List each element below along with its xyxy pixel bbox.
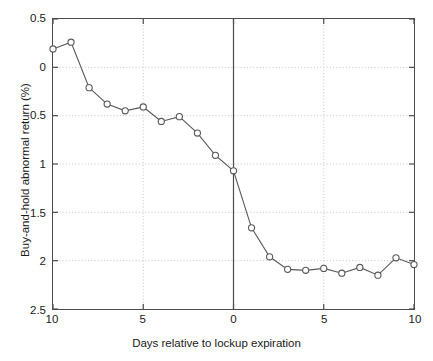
- x-axis-tick-label: 10: [32, 313, 72, 325]
- x-axis-tick-label: 10: [395, 313, 433, 325]
- y-axis-tick-label: 0.5: [0, 12, 46, 24]
- y-axis-tick-label: 2: [0, 255, 46, 267]
- y-axis-title: Buy-and-hold abnormal return (%): [19, 55, 31, 285]
- data-point-marker: [212, 152, 218, 158]
- plot-area: [52, 18, 415, 310]
- data-point-marker: [357, 264, 363, 270]
- y-axis-tick-label: 1.5: [0, 207, 46, 219]
- x-axis-tick-label: 5: [304, 313, 344, 325]
- data-point-marker: [230, 168, 236, 174]
- y-axis-tick-label: 1: [0, 158, 46, 170]
- data-point-marker: [375, 272, 381, 278]
- data-point-marker: [267, 254, 273, 260]
- data-series-layer: [53, 19, 414, 309]
- chart-figure: Buy-and-hold abnormal return (%) 0.500.5…: [0, 0, 433, 361]
- data-point-marker: [194, 130, 200, 136]
- data-point-marker: [50, 46, 56, 52]
- data-point-marker: [122, 108, 128, 114]
- data-point-marker: [68, 39, 74, 45]
- data-point-marker: [339, 270, 345, 276]
- data-point-marker: [321, 265, 327, 271]
- x-axis-tick-label: 0: [214, 313, 254, 325]
- data-point-marker: [158, 118, 164, 124]
- y-axis-tick-label: 0.5: [0, 109, 46, 121]
- x-axis-title: Days relative to lockup expiration: [0, 337, 433, 349]
- data-point-marker: [104, 101, 110, 107]
- data-point-marker: [248, 225, 254, 231]
- data-point-marker: [285, 266, 291, 272]
- data-point-marker: [303, 267, 309, 273]
- y-axis-tick-label: 0: [0, 61, 46, 73]
- data-point-marker: [140, 104, 146, 110]
- data-point-marker: [86, 85, 92, 91]
- series-line: [53, 42, 414, 275]
- data-point-marker: [176, 114, 182, 120]
- data-point-marker: [393, 255, 399, 261]
- data-point-marker: [411, 261, 417, 267]
- x-axis-tick-label: 5: [123, 313, 163, 325]
